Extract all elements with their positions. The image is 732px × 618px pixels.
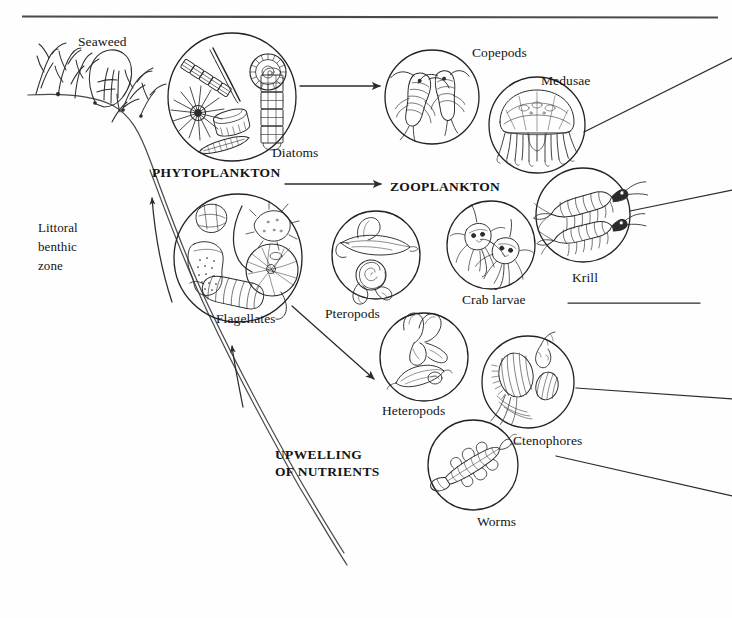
- seaweed-illustration: [36, 43, 166, 122]
- organism-circle-medusae: [489, 77, 585, 173]
- organism-circle-ctenophores: [480, 332, 574, 428]
- link-worms-offpanel: [556, 456, 732, 496]
- organism-circle-worms: [423, 420, 527, 510]
- link-krill-offpanel: [630, 190, 732, 211]
- link-medusae-offpanel: [584, 58, 732, 132]
- arrow-upwelling-right: [232, 346, 243, 407]
- label-upwelling-of-nutrients: UPWELLING OF NUTRIENTS: [275, 446, 380, 481]
- organism-circle-copepods: [382, 50, 479, 145]
- sea-surface-line: [22, 17, 718, 18]
- label-pteropods: Pteropods: [325, 305, 380, 322]
- label-worms: Worms: [477, 513, 516, 530]
- organism-circle-heteropods: [380, 313, 468, 401]
- label-medusae: Medusae: [541, 72, 590, 89]
- organism-circle-crab-larvae: [447, 200, 541, 296]
- label-copepods: Copepods: [472, 44, 527, 61]
- plankton-food-web-diagram: Seaweed Littoral benthic zone Diatoms PH…: [0, 0, 732, 618]
- label-krill: Krill: [572, 269, 598, 286]
- label-littoral-benthic-zone: Littoral benthic zone: [38, 219, 78, 276]
- arrow-upwelling-left: [152, 198, 172, 302]
- label-seaweed: Seaweed: [78, 33, 127, 50]
- organism-circle-krill: [530, 168, 653, 262]
- label-diatoms: Diatoms: [272, 144, 318, 161]
- label-crab-larvae: Crab larvae: [462, 291, 526, 308]
- label-flagellates: Flagellates: [216, 310, 276, 327]
- flow-arrows: [152, 86, 381, 407]
- label-heteropods: Heteropods: [382, 402, 445, 419]
- label-ctenophores: Ctenophores: [513, 432, 582, 449]
- organism-circle-pteropods: [332, 211, 420, 304]
- organism-circle-flagellates: [174, 194, 302, 322]
- link-ctenophores-offpanel: [576, 388, 732, 399]
- label-phytoplankton: PHYTOPLANKTON: [152, 164, 281, 181]
- label-zooplankton: ZOOPLANKTON: [390, 178, 500, 195]
- organism-circle-diatoms: [168, 33, 296, 161]
